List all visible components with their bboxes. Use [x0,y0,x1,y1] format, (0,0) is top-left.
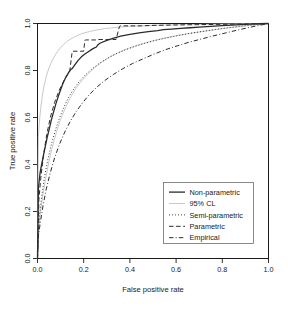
roc-chart-svg: 0.00.20.40.60.81.0 0.00.20.40.60.81.0 No… [0,0,288,312]
x-axis-title: False positive rate [122,285,184,294]
legend-label-non-parametric: Non-parametric [190,188,241,197]
legend-label-95-cl: 95% CL [190,199,216,208]
x-tick-label: 0.4 [125,265,135,274]
roc-plot-figure: 0.00.20.40.60.81.0 0.00.20.40.60.81.0 No… [0,0,288,312]
y-tick-label: 0.4 [23,160,32,170]
legend-label-semi-parametric: Semi-parametric [190,211,244,220]
x-tick-label: 0.8 [217,265,227,274]
y-tick-label: 0.6 [23,113,32,123]
y-tick-label: 0.0 [23,254,32,264]
y-tick-label: 1.0 [23,19,32,29]
legend-label-parametric: Parametric [190,222,226,231]
legend-label-empirical: Empirical [190,233,220,242]
y-axis-title: True positive rate [8,112,17,170]
y-tick-label: 0.2 [23,207,32,217]
x-tick-label: 1.0 [264,265,274,274]
x-tick-label: 0.2 [79,265,89,274]
chart-legend[interactable]: Non-parametric95% CLSemi-parametricParam… [164,183,254,244]
x-tick-label: 0.6 [171,265,181,274]
x-tick-label: 0.0 [33,265,43,274]
y-tick-label: 0.8 [23,66,32,76]
